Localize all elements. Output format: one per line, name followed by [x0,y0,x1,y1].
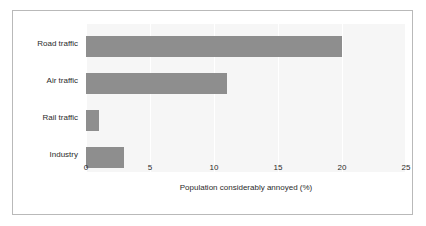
figure-panel: Road traffic Air traffic Rail traffic In… [12,10,413,215]
plot-area: Road traffic Air traffic Rail traffic In… [86,24,406,172]
bar-row: Industry [86,139,406,176]
bar-rail-traffic[interactable] [86,110,99,131]
bar-road-traffic[interactable] [86,36,342,57]
x-axis-title: Population considerably annoyed (%) [86,183,406,192]
xtick-label-5: 5 [148,163,152,172]
bar-industry[interactable] [86,147,124,168]
category-label-rail-traffic: Rail traffic [43,113,78,123]
xtick-label-15: 15 [274,163,283,172]
category-label-industry: Industry [50,150,78,160]
bar-row: Rail traffic [86,102,406,139]
bar-row: Air traffic [86,65,406,102]
xtick-label-10: 10 [210,163,219,172]
bar-row: Road traffic [86,28,406,65]
xtick-label-20: 20 [338,163,347,172]
category-label-road-traffic: Road traffic [37,39,78,49]
bar-air-traffic[interactable] [86,73,227,94]
xtick-label-25: 25 [402,163,411,172]
category-label-air-traffic: Air traffic [47,76,78,86]
xtick-label-0: 0 [84,163,88,172]
